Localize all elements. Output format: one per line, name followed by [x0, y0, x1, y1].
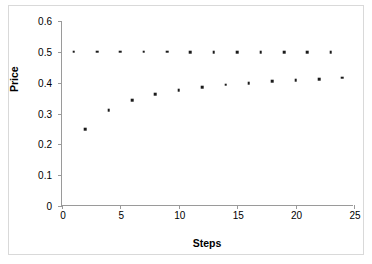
y-axis-tick-label: 0.4 — [38, 79, 52, 89]
data-point — [189, 51, 192, 54]
data-point — [318, 78, 321, 81]
scatter-chart-figure: Price 00.10.20.30.40.50.6 0510152025 Ste… — [0, 0, 372, 264]
data-point — [178, 89, 181, 92]
data-point — [271, 80, 274, 83]
data-point — [283, 51, 286, 54]
data-point — [236, 51, 239, 54]
data-point — [294, 79, 297, 82]
data-point — [154, 93, 157, 96]
y-axis-tick-label: 0 — [46, 202, 52, 212]
data-point — [84, 128, 87, 131]
x-axis-tick: 5 — [120, 205, 121, 209]
data-point — [119, 51, 122, 54]
data-point — [107, 109, 110, 112]
data-point — [259, 51, 262, 54]
data-point — [131, 99, 134, 102]
data-point — [96, 51, 99, 54]
x-axis-tick-label: 10 — [174, 211, 185, 221]
y-axis-title: Price — [8, 66, 20, 92]
x-axis-title: Steps — [61, 237, 353, 249]
plot-area: 00.10.20.30.40.50.6 0510152025 — [61, 21, 353, 206]
data-point — [329, 51, 332, 54]
data-point — [142, 51, 145, 54]
x-axis-tick-label: 25 — [349, 211, 360, 221]
y-axis-tick: 0.2 — [58, 144, 62, 145]
y-axis-tick: 0.3 — [58, 114, 62, 115]
x-axis-tick: 10 — [179, 205, 180, 209]
data-point — [224, 84, 227, 87]
x-axis-tick-label: 0 — [60, 211, 66, 221]
y-axis-tick: 0.1 — [58, 175, 62, 176]
x-axis-tick: 0 — [62, 205, 63, 209]
y-axis-tick-label: 0.3 — [38, 110, 52, 120]
x-axis-tick-label: 20 — [291, 211, 302, 221]
x-axis-tick-label: 15 — [233, 211, 244, 221]
y-axis-tick-label: 0.1 — [38, 171, 52, 181]
y-axis-tick-label: 0.2 — [38, 140, 52, 150]
data-point — [72, 51, 75, 54]
data-point — [201, 86, 204, 89]
y-axis-tick: 0.6 — [58, 21, 62, 22]
x-axis-tick: 20 — [296, 205, 297, 209]
x-axis-tick-label: 5 — [119, 211, 125, 221]
y-axis-tick: 0.5 — [58, 52, 62, 53]
data-point — [166, 51, 169, 54]
data-point — [341, 76, 344, 79]
data-point — [213, 51, 216, 54]
x-axis-tick: 25 — [354, 205, 355, 209]
data-point — [306, 51, 309, 54]
y-axis-tick-label: 0.6 — [38, 17, 52, 27]
y-axis-tick-label: 0.5 — [38, 48, 52, 58]
x-axis-tick: 15 — [237, 205, 238, 209]
y-axis-tick: 0.4 — [58, 83, 62, 84]
data-point — [248, 82, 251, 85]
